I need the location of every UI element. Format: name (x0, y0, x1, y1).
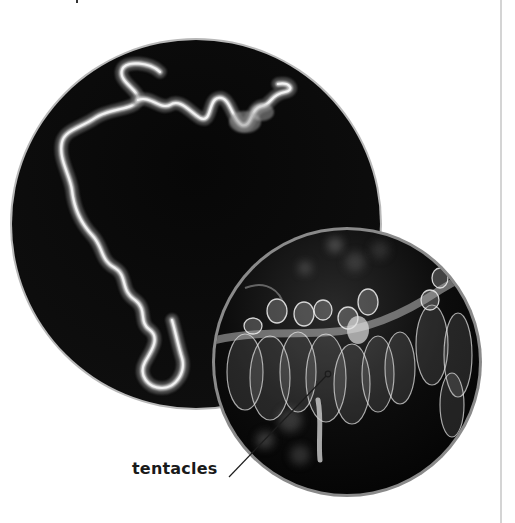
figure (0, 0, 515, 523)
inset-photo (212, 227, 485, 497)
page: tentacles (0, 0, 515, 523)
callout-label-tentacles: tentacles (132, 460, 217, 478)
